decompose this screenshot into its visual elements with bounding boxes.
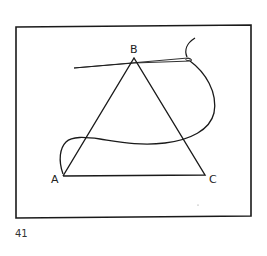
diagram-canvas bbox=[0, 0, 267, 256]
figure-number: 41 bbox=[15, 228, 28, 239]
needle-eye bbox=[186, 58, 190, 60]
vertex-label-c: C bbox=[209, 174, 217, 185]
diagram-figure: A B C 41 bbox=[0, 0, 267, 256]
triangle-abc bbox=[63, 58, 205, 176]
vertex-label-b: B bbox=[130, 44, 138, 55]
speck bbox=[197, 204, 198, 205]
thread-loop bbox=[60, 61, 215, 174]
thread-tail bbox=[186, 38, 195, 57]
vertex-label-a: A bbox=[51, 174, 59, 185]
